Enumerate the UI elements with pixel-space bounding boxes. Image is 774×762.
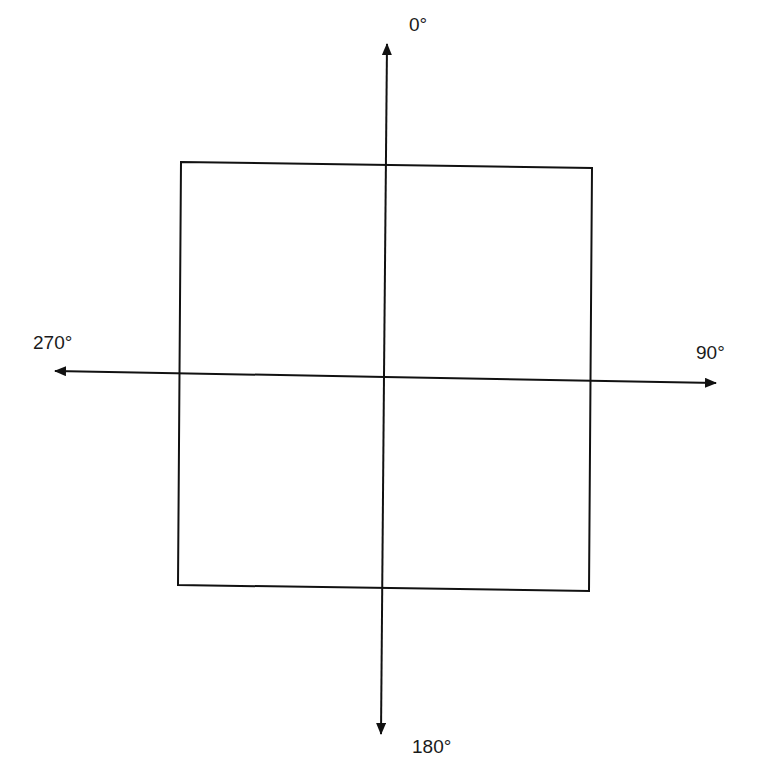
label-180-degrees: 180°	[412, 736, 451, 757]
vertical-axis-up-arrow	[384, 44, 387, 376]
label-90-degrees: 90°	[696, 342, 725, 363]
horizontal-axis-right-arrow	[385, 377, 716, 383]
label-0-degrees: 0°	[409, 14, 427, 35]
horizontal-axis-left-arrow	[55, 371, 385, 377]
orientation-diagram: 0° 90° 180° 270°	[0, 0, 774, 762]
label-270-degrees: 270°	[33, 332, 72, 353]
vertical-axis-down-arrow	[381, 376, 384, 734]
